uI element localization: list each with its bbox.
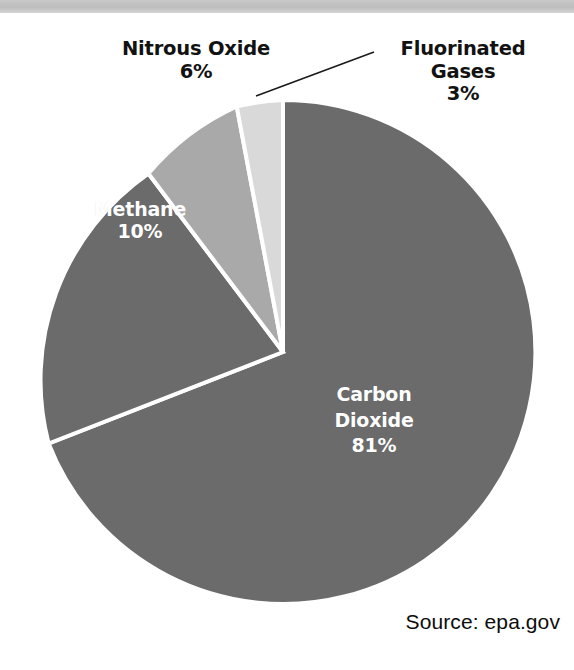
slice-label-methane-value: 10%	[70, 220, 210, 242]
slice-label-carbon-dioxide-name-line2: Dioxide	[300, 408, 448, 434]
slice-label-fluorinated-gases-name-line2: Gases	[378, 61, 548, 84]
slice-label-methane: Methane 10%	[70, 198, 210, 242]
slice-label-methane-name: Methane	[70, 198, 210, 220]
slice-label-nitrous-oxide-name: Nitrous Oxide	[96, 38, 296, 61]
slice-label-nitrous-oxide-value: 6%	[96, 61, 296, 84]
slice-label-carbon-dioxide-name-line1: Carbon	[300, 382, 448, 408]
slice-label-carbon-dioxide: Carbon Dioxide 81%	[300, 382, 448, 459]
slice-label-carbon-dioxide-value: 81%	[300, 433, 448, 459]
slice-label-fluorinated-gases-name-line1: Fluorinated	[378, 38, 548, 61]
slice-label-fluorinated-gases: Fluorinated Gases 3%	[378, 38, 548, 106]
slice-label-nitrous-oxide: Nitrous Oxide 6%	[96, 38, 296, 83]
source-attribution: Source: epa.gov	[406, 610, 560, 634]
greenhouse-gas-pie-chart: Nitrous Oxide 6% Fluorinated Gases 3% Me…	[0, 0, 574, 670]
slice-label-fluorinated-gases-value: 3%	[378, 83, 548, 106]
